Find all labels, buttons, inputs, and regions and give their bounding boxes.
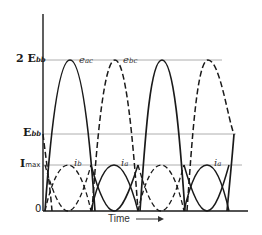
curve-i-a-trough xyxy=(45,165,184,211)
curve-i-a xyxy=(91,165,229,211)
label-imax: Imax xyxy=(20,158,40,169)
curve-e-bc xyxy=(92,60,234,211)
x-axis-label: Time xyxy=(108,214,130,224)
label-i-a-2: ia xyxy=(214,158,221,168)
curve-i-b-trough xyxy=(91,165,229,211)
label-i-a-1: ia xyxy=(121,158,128,168)
label-e-bc: ebc xyxy=(123,55,137,65)
label-e-ac: eac xyxy=(79,55,93,65)
label-i-b: ib xyxy=(74,158,82,168)
label-2ebb: 2 Ebb xyxy=(16,53,46,64)
label-zero: 0 xyxy=(35,204,41,214)
curve-e-ac xyxy=(45,60,185,211)
time-arrow-head xyxy=(158,216,164,222)
waveform-diagram xyxy=(0,0,262,235)
label-ebb: Ebb xyxy=(23,127,41,138)
curve-e-ac-end xyxy=(227,134,234,211)
curve-i-b xyxy=(45,165,184,211)
